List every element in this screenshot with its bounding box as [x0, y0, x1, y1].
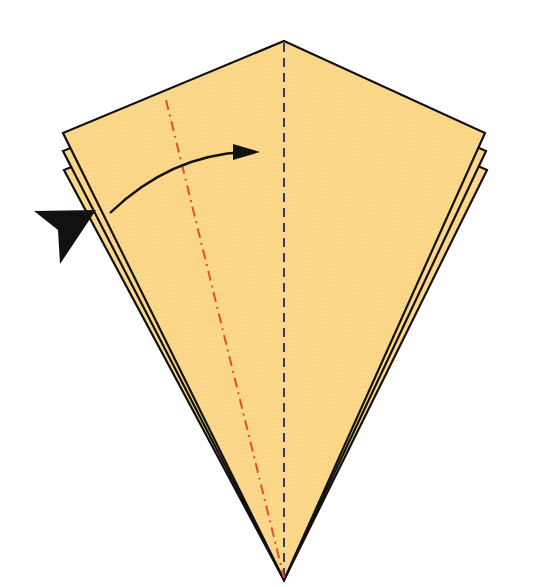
origami-diagram	[0, 0, 543, 587]
kite-layer-top	[63, 41, 485, 580]
push-arrow-icon	[34, 210, 96, 264]
